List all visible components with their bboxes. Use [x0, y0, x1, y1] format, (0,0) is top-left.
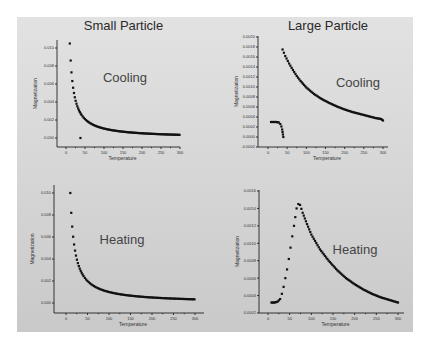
data-point [74, 250, 76, 252]
data-point [70, 71, 72, 73]
data-point [281, 293, 283, 295]
data-point [79, 268, 81, 270]
data-point [76, 105, 78, 107]
data-point [293, 71, 295, 73]
chart-title: Small Particle [84, 18, 163, 33]
data-point [308, 228, 310, 230]
y-tick-label: 0.0012 [244, 223, 257, 228]
data-point [279, 298, 281, 300]
data-point [382, 119, 384, 121]
data-point [72, 236, 74, 238]
y-tick-label: 0.0006 [244, 276, 257, 281]
y-tick-label: 0.0016 [244, 188, 257, 193]
x-tick-label: 200 [341, 150, 348, 155]
data-point [284, 277, 286, 279]
chart-title: Large Particle [288, 18, 368, 33]
data-point [397, 301, 399, 303]
chart-small-heating: 0.0000.0020.0040.0060.0080.0100501001502… [29, 185, 204, 327]
data-point [80, 270, 82, 272]
data-point [282, 133, 284, 135]
data-point [284, 55, 286, 57]
x-tick-label: 300 [395, 316, 402, 321]
y-tick-label: 0.010 [41, 190, 52, 195]
data-point [318, 246, 320, 248]
data-point [313, 238, 315, 240]
y-tick-label: 0.0016 [243, 54, 256, 59]
y-tick-label: 0.002 [41, 278, 52, 283]
x-axis-label: Temperature [108, 155, 136, 161]
y-tick-label: 0.000 [41, 300, 52, 305]
y-tick-label: 0.0008 [244, 258, 257, 263]
chart-grid: 0.0000.0020.0040.0060.0080.0100501001502… [0, 0, 429, 352]
y-tick-label: 0.006 [44, 81, 55, 86]
x-tick-label: 250 [158, 150, 165, 155]
data-point [283, 286, 285, 288]
data-point [282, 136, 284, 138]
y-tick-label: 0.004 [41, 256, 52, 261]
data-point [289, 247, 291, 249]
data-point [307, 226, 309, 228]
x-tick-label: 0 [267, 150, 270, 155]
data-point [311, 236, 313, 238]
annotation-label: Cooling [103, 70, 147, 85]
y-tick-label: 0.0014 [243, 64, 256, 69]
data-point [76, 259, 78, 261]
x-tick-label: 0 [65, 150, 68, 155]
data-point [285, 57, 287, 59]
y-tick-label: 0.0020 [243, 34, 256, 39]
y-tick-label: 0.0014 [244, 206, 257, 211]
y-axis-label: Magnetization [234, 236, 240, 267]
data-point [300, 208, 302, 210]
data-point [309, 231, 311, 233]
data-point [305, 220, 307, 222]
y-tick-label: 0.0004 [244, 293, 257, 298]
x-tick-label: 50 [83, 150, 88, 155]
x-tick-label: 200 [139, 150, 146, 155]
data-point [304, 217, 306, 219]
data-point [74, 96, 76, 98]
y-tick-label: 0.0004 [243, 114, 256, 119]
data-point [281, 131, 283, 133]
y-axis-label: Magnetization [32, 78, 38, 109]
chart-small-cooling: 0.0000.0020.0040.0060.0080.0100501001502… [32, 18, 184, 161]
data-point [296, 207, 298, 209]
data-point [77, 107, 79, 109]
y-tick-label: 0.008 [44, 63, 55, 68]
annotation-label: Cooling [336, 75, 380, 90]
data-point [77, 262, 79, 264]
annotation-label: Heating [100, 232, 145, 247]
x-tick-label: 50 [285, 150, 290, 155]
x-axis-label: Temperature [321, 321, 349, 327]
data-point [71, 226, 73, 228]
y-tick-label: 0.0000 [243, 134, 256, 139]
data-point [70, 212, 72, 214]
axis-lines [54, 185, 204, 313]
data-point [316, 244, 318, 246]
data-point [69, 192, 71, 194]
data-point [283, 52, 285, 54]
x-tick-label: 300 [380, 150, 387, 155]
data-point [299, 204, 301, 206]
x-tick-label: 0 [65, 316, 68, 321]
x-tick-label: 0 [267, 316, 270, 321]
x-axis-label: Temperature [119, 321, 147, 327]
x-tick-label: 200 [351, 316, 358, 321]
y-axis-label: Magnetization [233, 76, 239, 107]
x-tick-label: 300 [177, 150, 184, 155]
data-point [302, 212, 304, 214]
data-point [306, 223, 308, 225]
y-tick-label: 0.0008 [243, 94, 256, 99]
y-tick-label: 0.0012 [243, 74, 256, 79]
y-tick-label: -0.0002 [241, 144, 255, 149]
y-tick-label: 0.006 [41, 234, 52, 239]
y-axis-label: Magnetization [29, 233, 35, 264]
data-point [79, 137, 81, 139]
x-tick-label: 100 [106, 316, 113, 321]
y-tick-label: 0.000 [44, 135, 55, 140]
axis-lines [259, 190, 404, 313]
data-point [294, 216, 296, 218]
data-point [310, 233, 312, 235]
data-point [314, 240, 316, 242]
x-tick-label: 250 [360, 150, 367, 155]
x-tick-label: 50 [85, 316, 90, 321]
